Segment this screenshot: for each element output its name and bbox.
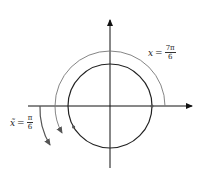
var-x-tilde: x̃ bbox=[10, 118, 15, 128]
point-angle-7pi-6 bbox=[72, 125, 75, 128]
unit-circle-diagram bbox=[0, 0, 206, 180]
var-x: x bbox=[148, 48, 153, 58]
point-angle-zero bbox=[150, 104, 153, 107]
denominator: 6 bbox=[168, 53, 172, 61]
numerator: 7π bbox=[165, 44, 176, 53]
denominator: 6 bbox=[28, 123, 32, 131]
numerator: π bbox=[27, 114, 34, 123]
label-x-7pi-6: x = 7π 6 bbox=[148, 44, 176, 61]
fraction-7pi-6: 7π 6 bbox=[165, 44, 176, 61]
equals-sign: = bbox=[155, 48, 163, 58]
equals-sign: = bbox=[17, 118, 25, 128]
label-xt-pi-6: x̃ = π 6 bbox=[10, 114, 33, 131]
angle-arc-pi-6 bbox=[40, 106, 50, 145]
fraction-pi-6: π 6 bbox=[27, 114, 34, 131]
